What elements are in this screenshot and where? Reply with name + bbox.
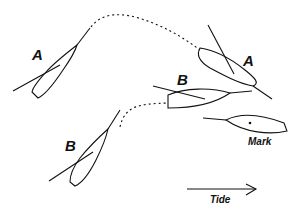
mark-boat [203,115,287,132]
label-boat-b-end: B [177,71,188,88]
mark-dot [249,122,252,125]
course-a-dotted [91,15,200,50]
boat-a-end [198,25,272,99]
course-b-dotted [120,103,168,127]
label-boat-a-end: A [243,52,254,69]
sailing-diagram [0,0,302,213]
label-tide: Tide [210,194,230,205]
boat-a-start [13,28,90,98]
label-mark: Mark [248,136,271,147]
label-boat-a-start: A [32,46,43,63]
boat-b-end [153,86,252,108]
boat-b-start [49,110,120,186]
label-boat-b-start: B [65,137,76,154]
